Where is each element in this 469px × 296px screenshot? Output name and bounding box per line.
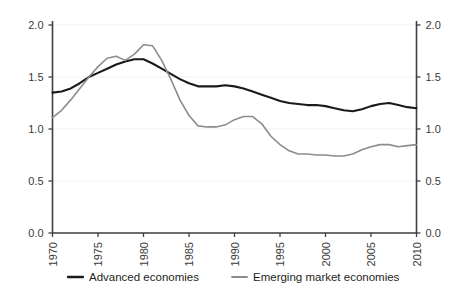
x-tick-label: 2010	[411, 242, 423, 266]
x-tick-label: 2005	[365, 242, 377, 266]
x-tick-label: 1975	[92, 242, 104, 266]
y-tick-label-left: 0.5	[28, 175, 43, 187]
y-tick-label-right: 2.0	[426, 19, 441, 31]
x-tick-label: 1970	[47, 242, 59, 266]
chart-legend: Advanced economiesEmerging market econom…	[68, 271, 400, 283]
y-tick-label-right: 0.5	[426, 175, 441, 187]
x-axis-ticks: 197019751980198519901995200020052010	[47, 233, 423, 266]
legend-label-2: Emerging market economies	[253, 271, 400, 283]
data-series-group	[53, 45, 417, 156]
y-tick-label-left: 1.5	[28, 71, 43, 83]
y-tick-label-right: 0.0	[426, 227, 441, 239]
gridlines	[53, 25, 417, 233]
line-chart: 0.00.51.01.52.0 0.00.51.01.52.0 19701975…	[0, 0, 469, 296]
y-tick-label-right: 1.0	[426, 123, 441, 135]
legend-label-1: Advanced economies	[89, 271, 199, 283]
y-axis-left-ticks: 0.00.51.01.52.0	[28, 19, 52, 239]
y-tick-label-left: 2.0	[28, 19, 43, 31]
series-line-1	[53, 59, 417, 111]
y-axis-right-ticks: 0.00.51.01.52.0	[417, 19, 441, 239]
y-tick-label-left: 1.0	[28, 123, 43, 135]
x-tick-label: 1980	[138, 242, 150, 266]
axes	[53, 21, 417, 233]
x-tick-label: 1995	[274, 242, 286, 266]
x-tick-label: 1985	[183, 242, 195, 266]
series-line-2	[53, 45, 417, 156]
y-tick-label-left: 0.0	[28, 227, 43, 239]
y-tick-label-right: 1.5	[426, 71, 441, 83]
chart-container: 0.00.51.01.52.0 0.00.51.01.52.0 19701975…	[0, 0, 469, 296]
x-tick-label: 2000	[320, 242, 332, 266]
x-tick-label: 1990	[229, 242, 241, 266]
